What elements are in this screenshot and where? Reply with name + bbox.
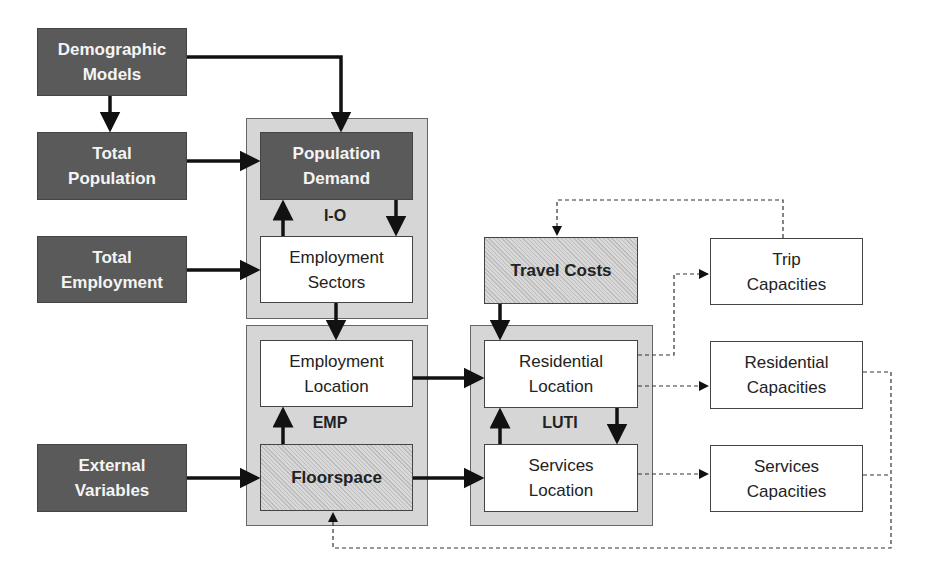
- connector-arrows: [0, 0, 926, 574]
